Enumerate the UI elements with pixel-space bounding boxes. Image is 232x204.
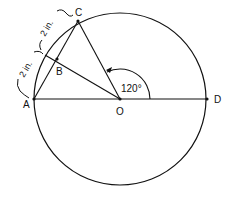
label-B: B <box>56 66 63 77</box>
point-O <box>118 97 121 100</box>
dimension-brace-lower-tail <box>17 79 29 98</box>
label-D: D <box>214 94 221 105</box>
dimension-brace-lower <box>34 51 43 54</box>
point-D <box>205 97 208 100</box>
dimension-brace-upper-tail <box>40 40 42 50</box>
dimension-label-lower: 2 in. <box>17 59 34 79</box>
label-A: A <box>23 99 30 110</box>
geometry-diagram: A B C O D 120° 2 in. 2 in. <box>0 0 232 204</box>
label-C: C <box>75 7 82 18</box>
dimension-brace-upper <box>57 10 73 16</box>
label-O: O <box>116 106 124 117</box>
angle-label: 120° <box>121 83 142 94</box>
point-B <box>55 57 58 60</box>
dimension-label-upper: 2 in. <box>38 18 55 38</box>
point-A <box>32 97 35 100</box>
point-C <box>76 19 79 22</box>
